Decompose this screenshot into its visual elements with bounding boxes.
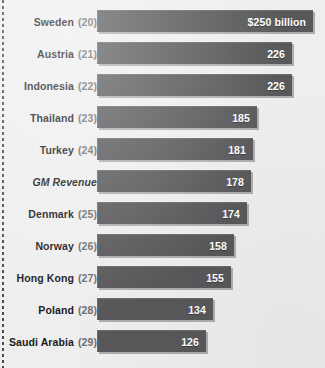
bar-wrapper: 226 bbox=[97, 74, 292, 98]
bar-value-label: 178 bbox=[226, 176, 251, 188]
row-label-name: Saudi Arabia bbox=[9, 336, 74, 348]
bar: 134 bbox=[97, 298, 213, 320]
bar-wrapper: 126 bbox=[97, 330, 206, 354]
bar-wrapper: 174 bbox=[97, 202, 247, 226]
bar: 226 bbox=[97, 42, 292, 64]
row-label: Poland(28) bbox=[0, 298, 97, 322]
bar-wrapper: 185 bbox=[97, 106, 257, 130]
bar: 185 bbox=[97, 106, 257, 128]
bar: 158 bbox=[97, 234, 234, 256]
row-label-name: Thailand bbox=[30, 112, 74, 124]
bar-rows-container: Sweden(20)$250 billionAustria(21)226Indo… bbox=[0, 0, 325, 368]
row-label: Norway(26) bbox=[0, 234, 97, 258]
bar-value-label: 134 bbox=[188, 304, 213, 316]
row-label-name: Sweden bbox=[34, 16, 74, 28]
bar-row: Sweden(20)$250 billion bbox=[0, 10, 325, 34]
row-label-rank: (23) bbox=[78, 112, 97, 124]
bar-value-label: 155 bbox=[206, 272, 231, 284]
bar: 226 bbox=[97, 74, 292, 96]
row-label: Thailand(23) bbox=[0, 106, 97, 130]
bar-value-label: 181 bbox=[228, 144, 253, 156]
bar-value-label: $250 billion bbox=[248, 16, 313, 28]
row-label: Indonesia(22) bbox=[0, 74, 97, 98]
row-label-rank: (25) bbox=[78, 208, 97, 220]
bar: 178 bbox=[97, 170, 251, 192]
bar-wrapper: 134 bbox=[97, 298, 213, 322]
row-label-rank: (27) bbox=[78, 272, 97, 284]
bar-chart: Sweden(20)$250 billionAustria(21)226Indo… bbox=[0, 0, 325, 368]
bar: 181 bbox=[97, 138, 253, 160]
bar-row: Thailand(23)185 bbox=[0, 106, 325, 130]
row-label: Sweden(20) bbox=[0, 10, 97, 34]
row-label-rank: (29) bbox=[78, 336, 97, 348]
row-label-rank: (24) bbox=[78, 144, 97, 156]
row-label: Saudi Arabia(29) bbox=[0, 330, 97, 354]
bar: 126 bbox=[97, 330, 206, 352]
bar-row: Hong Kong(27)155 bbox=[0, 266, 325, 290]
bar-row: Austria(21)226 bbox=[0, 42, 325, 66]
bar-value-label: 226 bbox=[267, 80, 292, 92]
row-label: Turkey(24) bbox=[0, 138, 97, 162]
row-label: Denmark(25) bbox=[0, 202, 97, 226]
row-label-name: Denmark bbox=[28, 208, 74, 220]
row-label-name: Poland bbox=[38, 304, 74, 316]
row-label: GM Revenue bbox=[0, 170, 97, 194]
bar-row: Poland(28)134 bbox=[0, 298, 325, 322]
row-label-rank: (26) bbox=[78, 240, 97, 252]
row-label-rank: (20) bbox=[78, 16, 97, 28]
bar-value-label: 185 bbox=[232, 112, 257, 124]
bar-value-label: 126 bbox=[181, 336, 206, 348]
row-label-name: Indonesia bbox=[24, 80, 74, 92]
row-label-name: Norway bbox=[35, 240, 74, 252]
bar-wrapper: 181 bbox=[97, 138, 253, 162]
row-label-rank: (22) bbox=[78, 80, 97, 92]
row-label-name: Austria bbox=[37, 48, 74, 60]
bar-wrapper: 226 bbox=[97, 42, 292, 66]
row-label-rank: (21) bbox=[78, 48, 97, 60]
row-label-name: Hong Kong bbox=[16, 272, 73, 284]
bar-row: Saudi Arabia(29)126 bbox=[0, 330, 325, 354]
row-label-name: Turkey bbox=[40, 144, 74, 156]
bar: $250 billion bbox=[97, 10, 313, 32]
bar-row: Norway(26)158 bbox=[0, 234, 325, 258]
row-label: Hong Kong(27) bbox=[0, 266, 97, 290]
bar-wrapper: 155 bbox=[97, 266, 231, 290]
bar-value-label: 174 bbox=[222, 208, 247, 220]
bar-wrapper: $250 billion bbox=[97, 10, 313, 34]
bar-row: GM Revenue178 bbox=[0, 170, 325, 194]
bar: 174 bbox=[97, 202, 247, 224]
bar-row: Turkey(24)181 bbox=[0, 138, 325, 162]
bar: 155 bbox=[97, 266, 231, 288]
row-label: Austria(21) bbox=[0, 42, 97, 66]
row-label-rank: (28) bbox=[78, 304, 97, 316]
bar-wrapper: 178 bbox=[97, 170, 251, 194]
bar-row: Indonesia(22)226 bbox=[0, 74, 325, 98]
bar-wrapper: 158 bbox=[97, 234, 234, 258]
bar-value-label: 226 bbox=[267, 48, 292, 60]
bar-value-label: 158 bbox=[209, 240, 234, 252]
bar-row: Denmark(25)174 bbox=[0, 202, 325, 226]
row-label-name: GM Revenue bbox=[32, 176, 97, 188]
